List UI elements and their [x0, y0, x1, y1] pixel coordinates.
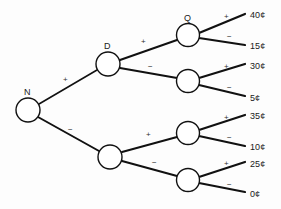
node-label-d: D: [104, 42, 111, 51]
branch-label-lm-minus: −: [227, 181, 232, 189]
leaf-value-leaf-5: 5¢: [250, 94, 260, 103]
tree-node: [177, 169, 200, 192]
node-label-n: N: [24, 88, 31, 97]
leaf-value-leaf-15: 15¢: [250, 42, 265, 51]
tree-edge: [38, 117, 99, 151]
leaf-value-leaf-0: 0¢: [250, 190, 260, 199]
tree-edge: [199, 85, 245, 96]
node-label-q: Q: [184, 14, 191, 23]
branch-label-dm-minus: −: [227, 84, 232, 92]
tree-edge: [199, 136, 245, 146]
tree-edge: [122, 161, 177, 176]
tree-edge: [199, 162, 245, 177]
tree-edge: [199, 14, 245, 33]
tree-node: [177, 24, 200, 47]
branch-label-lp-plus: +: [224, 114, 229, 122]
branch-label-low-plus: +: [146, 131, 151, 139]
tree-node: [96, 52, 120, 76]
tree-edge: [199, 115, 245, 130]
leaf-value-leaf-35: 35¢: [250, 112, 265, 121]
tree-edge: [199, 183, 245, 192]
branch-label-dm-plus: +: [224, 63, 229, 71]
branch-label-q-plus: +: [224, 13, 229, 21]
decision-tree-figure: NDQ +−+−+−+−+−+−+− 40¢15¢30¢5¢35¢10¢25¢0…: [0, 0, 281, 209]
tree-edge: [39, 70, 97, 104]
leaf-value-leaf-40: 40¢: [250, 11, 265, 20]
tree-node: [98, 145, 122, 169]
tree-canvas: [0, 0, 281, 209]
tree-edge: [122, 137, 177, 152]
branch-label-root-minus: −: [68, 126, 73, 134]
tree-node: [177, 122, 200, 145]
branch-label-root-plus: +: [63, 76, 68, 84]
tree-edge: [120, 40, 177, 60]
branch-label-d-plus: +: [141, 38, 146, 46]
tree-edge: [199, 38, 245, 45]
tree-edge: [199, 64, 245, 78]
branch-label-low-minus: −: [152, 159, 157, 167]
tree-node: [16, 98, 40, 122]
leaf-value-leaf-30: 30¢: [250, 62, 265, 71]
tree-node: [177, 70, 200, 93]
branch-label-q-minus: −: [227, 33, 232, 41]
leaf-value-leaf-10: 10¢: [250, 143, 265, 152]
branch-label-lm-plus: +: [224, 160, 229, 168]
branch-label-d-minus: −: [148, 63, 153, 71]
leaf-value-leaf-25: 25¢: [250, 160, 265, 169]
branch-label-lp-minus: −: [227, 134, 232, 142]
